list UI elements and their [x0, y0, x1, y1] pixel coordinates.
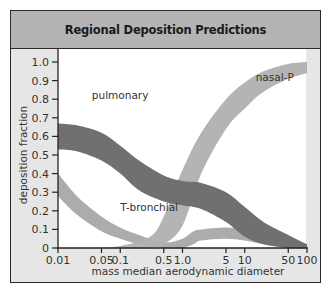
y-axis-label: deposition fraction: [17, 106, 29, 204]
y-tick-label: 0.6: [32, 130, 50, 143]
y-tick-label: 0.8: [32, 93, 50, 106]
label-nasal-p: nasal-P: [256, 71, 294, 83]
y-tick-label: 1.0: [32, 56, 50, 69]
label-t-bronchial: T-bronchial: [119, 201, 178, 213]
x-tick-label: 100: [297, 254, 318, 267]
label-pulmonary: pulmonary: [92, 89, 149, 101]
y-tick-label: 0.1: [32, 223, 50, 236]
y-tick-label: 0.5: [32, 149, 50, 162]
x-tick-label: 0.01: [46, 254, 71, 267]
y-tick-label: 0.3: [32, 186, 50, 199]
chart-canvas: 00.10.20.30.40.50.60.70.80.91.00.010.050…: [0, 0, 330, 294]
y-tick-label: 0.4: [32, 168, 50, 181]
x-axis-label: mass median aerodynamic diameter: [92, 265, 286, 277]
y-tick-label: 0.9: [32, 75, 50, 88]
y-tick-label: 0.7: [32, 112, 50, 125]
y-tick-label: 0.2: [32, 205, 50, 218]
